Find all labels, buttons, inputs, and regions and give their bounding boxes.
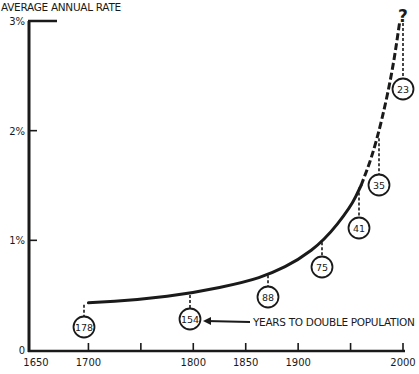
annotation-value: 23: [397, 84, 409, 95]
question-mark: ?: [398, 6, 408, 26]
x-tick-label: 1650: [23, 357, 48, 368]
growth-rate-curve: [88, 21, 399, 303]
x-tick-label: 1800: [181, 357, 206, 368]
population-growth-chart: 01%2%3%165017001800185019002000 17815488…: [0, 0, 419, 374]
x-tick-label: 1700: [76, 357, 101, 368]
curve-dashed: [361, 21, 400, 186]
y-tick-label: 2%: [9, 126, 25, 137]
annotation-value: 75: [316, 262, 328, 273]
annotation-value: 154: [181, 314, 199, 325]
callout-label: YEARS TO DOUBLE POPULATION: [252, 316, 415, 328]
annotation-178: 178: [74, 305, 95, 338]
annotation-88: 88: [258, 275, 279, 307]
annotation-value: 88: [262, 292, 274, 303]
annotation-23: 23: [393, 23, 414, 100]
callout-arrow-line: [206, 321, 250, 322]
curve-solid: [88, 186, 361, 303]
annotation-35: 35: [369, 138, 390, 195]
y-axis-label: AVERAGE ANNUAL RATE: [1, 1, 121, 13]
y-tick-label: 3%: [9, 16, 25, 27]
x-tick-label: 1850: [233, 357, 258, 368]
annotation-value: 178: [75, 322, 93, 333]
annotation-value: 41: [353, 223, 365, 234]
y-tick-label: 0: [19, 345, 25, 356]
x-tick-label: 2000: [390, 357, 415, 368]
arrowhead-icon: [203, 317, 211, 325]
x-tick-label: 1900: [285, 357, 310, 368]
annotation-154: 154: [180, 295, 201, 330]
annotation-41: 41: [349, 188, 370, 239]
y-tick-label: 1%: [9, 235, 25, 246]
annotation-value: 35: [373, 180, 385, 191]
